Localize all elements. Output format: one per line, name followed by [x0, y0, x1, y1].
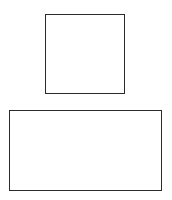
square-shape [45, 14, 125, 94]
rectangle-shape [9, 110, 162, 191]
